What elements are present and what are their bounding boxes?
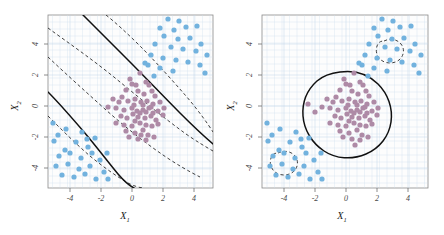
ytick-label: 4: [245, 42, 254, 46]
y-axis-title: X2: [9, 101, 22, 112]
ytick-label: 4: [31, 42, 40, 46]
xtick-label: -4: [281, 194, 288, 203]
xtick-labels-right: -4 -2 0 2 4: [281, 194, 410, 203]
xtick-label: 2: [161, 194, 165, 203]
ytick-label: 0: [245, 104, 254, 108]
x-axis-title: X1: [336, 210, 346, 223]
left-panel-svg: -4 -2 0 2 4 4 2 0 -2 -4 X1 X2: [0, 0, 222, 235]
xtick-label: -2: [98, 194, 105, 203]
ytick-label: -2: [31, 134, 40, 141]
xtick-label: -4: [67, 194, 74, 203]
xtick-label: 4: [192, 194, 196, 203]
y-axis-title: X2: [225, 101, 238, 112]
radial-svm-panel: -4 -2 0 2 4 4 2 0 -2 -4 X1 X2: [222, 0, 444, 235]
xtick-labels-left: -4 -2 0 2 4: [67, 194, 196, 203]
x-axis-title: X1: [119, 210, 129, 223]
xtick-label: -2: [312, 194, 319, 203]
ytick-label: 0: [31, 104, 40, 108]
svm-decision-boundary-figure: -4 -2 0 2 4 4 2 0 -2 -4 X1 X2: [0, 0, 444, 235]
ytick-label: 2: [245, 73, 254, 77]
ytick-labels-right: 4 2 0 -2 -4: [245, 42, 254, 171]
xtick-label: 0: [130, 194, 134, 203]
ytick-label: -4: [245, 165, 254, 172]
ytick-labels-left: 4 2 0 -2 -4: [31, 42, 40, 171]
right-panel-svg: -4 -2 0 2 4 4 2 0 -2 -4 X1 X2: [222, 0, 444, 235]
ytick-label: 2: [31, 73, 40, 77]
ytick-label: -2: [245, 134, 254, 141]
ytick-label: -4: [31, 165, 40, 172]
xtick-label: 4: [406, 194, 410, 203]
xtick-label: 0: [344, 194, 348, 203]
xtick-label: 2: [375, 194, 379, 203]
linear-svm-panel: -4 -2 0 2 4 4 2 0 -2 -4 X1 X2: [0, 0, 222, 235]
